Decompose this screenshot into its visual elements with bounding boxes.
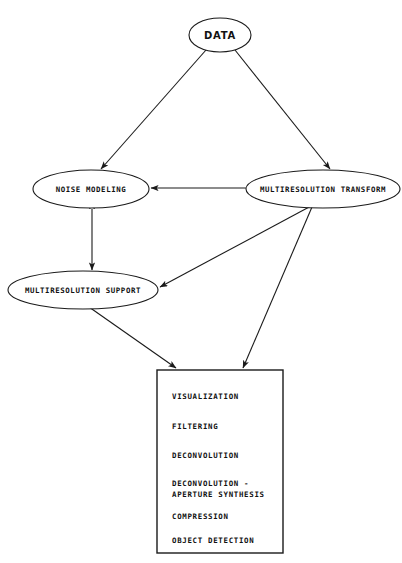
edge-transform-to-box xyxy=(243,207,312,368)
node-multiresolution-transform[interactable]: MULTIRESOLUTION TRANSFORM xyxy=(246,170,400,208)
edge-layer xyxy=(89,50,330,368)
edge-transform-to-multiresolution-support xyxy=(160,206,311,287)
box-item-deconvolution-aperture-synthesis-line2: APERTURE SYNTHESIS xyxy=(172,490,265,499)
edge-data-to-multiresolution-transform xyxy=(235,50,330,169)
box-item-object-detection: OBJECT DETECTION xyxy=(172,536,254,545)
box-item-deconvolution-aperture-synthesis-line1: DECONVOLUTION - xyxy=(172,479,249,488)
edge-multiresolution-support-to-box xyxy=(89,307,176,368)
node-multiresolution-support-label: MULTIRESOLUTION SUPPORT xyxy=(25,286,141,295)
node-noise-modeling-label: NOISE MODELING xyxy=(56,185,127,194)
box-item-deconvolution: DECONVOLUTION xyxy=(172,451,239,460)
box-item-filtering: FILTERING xyxy=(172,422,218,431)
box-item-compression: COMPRESSION xyxy=(172,512,229,521)
diagram-canvas: DATA NOISE MODELING MULTIRESOLUTION TRAN… xyxy=(0,0,402,563)
node-noise-modeling[interactable]: NOISE MODELING xyxy=(33,170,149,208)
applications-box[interactable]: VISUALIZATION FILTERING DECONVOLUTION DE… xyxy=(157,370,283,553)
box-item-visualization: VISUALIZATION xyxy=(172,392,239,401)
diagram-root: DATA NOISE MODELING MULTIRESOLUTION TRAN… xyxy=(0,0,402,563)
node-multiresolution-support[interactable]: MULTIRESOLUTION SUPPORT xyxy=(8,271,158,309)
edge-data-to-noise-modeling xyxy=(101,50,206,169)
node-data-label: DATA xyxy=(204,30,236,41)
node-multiresolution-transform-label: MULTIRESOLUTION TRANSFORM xyxy=(260,185,386,194)
node-data[interactable]: DATA xyxy=(189,18,251,52)
